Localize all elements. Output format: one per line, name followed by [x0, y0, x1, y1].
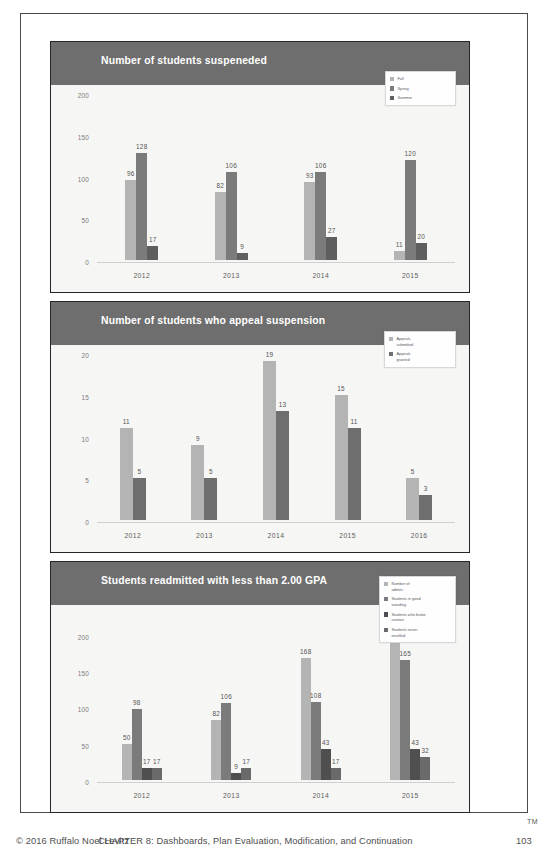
bar-value-label: 11 — [123, 418, 130, 425]
bar-value-label: 13 — [279, 401, 287, 408]
bar-group: 53 — [406, 355, 432, 520]
x-axis-labels: 2012201320142015 — [97, 788, 455, 802]
bar-group: 821069 — [215, 95, 248, 260]
legend-label: Students in good standing — [391, 596, 420, 607]
bar-value-label: 43 — [411, 739, 419, 746]
legend-swatch-icon — [390, 77, 394, 81]
legend-item: Students never enrolled — [384, 627, 450, 638]
legend-swatch-icon — [389, 337, 393, 341]
x-axis-label: 2013 — [187, 268, 277, 282]
bar: 120 — [405, 160, 416, 260]
bar-value-label: 20 — [417, 233, 425, 240]
bar-value-label: 106 — [315, 162, 326, 169]
bar-value-label: 17 — [332, 758, 340, 765]
legend-label: Fall — [397, 76, 403, 82]
x-axis-label: 2012 — [97, 528, 169, 542]
bar: 98 — [132, 709, 142, 780]
bar-group: 1112020 — [394, 95, 427, 260]
bar: 11 — [348, 428, 361, 520]
bar-group: 50981717 — [122, 615, 162, 780]
bar-value-label: 3 — [424, 485, 428, 492]
legend-swatch-icon — [390, 86, 394, 90]
x-axis-labels: 20122013201420152016 — [97, 528, 455, 542]
y-axis-tick: 20 — [81, 352, 89, 359]
bar-value-label: 15 — [337, 385, 345, 392]
bar: 106 — [315, 172, 326, 261]
chart-plot: 050100150200 961281782106993106271112020… — [51, 85, 469, 292]
chart-card-appeals: Number of students who appeal suspension… — [50, 301, 470, 553]
bar: 50 — [122, 744, 132, 780]
y-axis-tick: 0 — [85, 259, 89, 266]
chart-legend: Number of admitsStudents in good standin… — [379, 576, 456, 643]
y-axis-tick: 0 — [85, 779, 89, 786]
bar: 5 — [133, 478, 146, 520]
bar: 13 — [276, 411, 289, 520]
y-axis-tick: 100 — [78, 175, 89, 182]
trademark-mark: TM — [527, 818, 538, 825]
bar-value-label: 43 — [322, 739, 330, 746]
bar: 168 — [301, 658, 311, 780]
bar: 3 — [419, 495, 432, 520]
bar: 17 — [331, 768, 341, 780]
x-axis-label: 2014 — [240, 528, 312, 542]
bar: 108 — [311, 702, 321, 780]
bar-value-label: 96 — [127, 170, 135, 177]
bar-value-label: 9 — [196, 435, 200, 442]
bar: 82 — [211, 720, 221, 780]
legend-label: Students who broke contact — [391, 612, 425, 623]
bar-value-label: 93 — [306, 172, 314, 179]
axis-baseline — [97, 782, 455, 783]
legend-item: Appeals granted — [389, 351, 450, 362]
plot-area: 115951913151153 — [97, 355, 455, 520]
footer-chapter: CHAPTER 8: Dashboards, Plan Evaluation, … — [98, 836, 412, 846]
x-axis-label: 2014 — [276, 788, 366, 802]
bar-value-label: 5 — [137, 468, 141, 475]
bar-group: 82106917 — [211, 615, 251, 780]
y-axis-tick: 100 — [78, 706, 89, 713]
legend-item: Summer — [390, 95, 450, 101]
bar: 19 — [263, 361, 276, 520]
bar-value-label: 9 — [234, 763, 238, 770]
bar: 9 — [237, 253, 248, 261]
x-axis-labels: 2012201320142015 — [97, 268, 455, 282]
chart-header-bar: Students readmitted with less than 2.00 … — [51, 562, 469, 605]
legend-swatch-icon — [384, 582, 388, 586]
chart-card-readmitted: Students readmitted with less than 2.00 … — [50, 561, 470, 813]
y-axis-tick: 150 — [78, 133, 89, 140]
bar-value-label: 9 — [240, 243, 244, 250]
bar-value-label: 17 — [149, 236, 157, 243]
bar: 11 — [394, 251, 405, 260]
bar-value-label: 5 — [411, 468, 415, 475]
bar: 17 — [241, 768, 251, 780]
chart-header-bar: Number of students who appeal suspension… — [51, 302, 469, 345]
bar: 20 — [416, 243, 427, 260]
y-axis-tick: 50 — [81, 742, 89, 749]
bar: 27 — [326, 237, 337, 260]
legend-item: Number of admits — [384, 581, 450, 592]
y-axis: 05101520 — [51, 345, 97, 552]
bar-value-label: 27 — [328, 227, 336, 234]
bar: 9 — [191, 445, 204, 520]
bar-value-label: 50 — [123, 734, 131, 741]
bar: 17 — [147, 246, 158, 260]
bar: 17 — [152, 768, 162, 780]
legend-swatch-icon — [384, 612, 388, 616]
legend-swatch-icon — [384, 597, 388, 601]
legend-label: Appeals granted — [396, 351, 410, 362]
y-axis-tick: 5 — [85, 477, 89, 484]
y-axis-tick: 200 — [78, 633, 89, 640]
bar: 128 — [136, 153, 147, 260]
legend-label: Appeals submitted — [396, 336, 413, 347]
bar-group: 95 — [191, 355, 217, 520]
bar: 212 — [390, 626, 400, 780]
chart-title: Number of students who appeal suspension — [101, 315, 325, 326]
x-axis-label: 2013 — [169, 528, 241, 542]
axis-baseline — [97, 262, 455, 263]
footer-page-number: 103 — [516, 836, 532, 846]
chart-title: Students readmitted with less than 2.00 … — [101, 575, 327, 586]
axis-baseline — [97, 522, 455, 523]
plot-area: 961281782106993106271112020 — [97, 95, 455, 260]
bar: 15 — [335, 395, 348, 520]
bar: 9 — [231, 773, 241, 780]
y-axis-tick: 150 — [78, 670, 89, 677]
